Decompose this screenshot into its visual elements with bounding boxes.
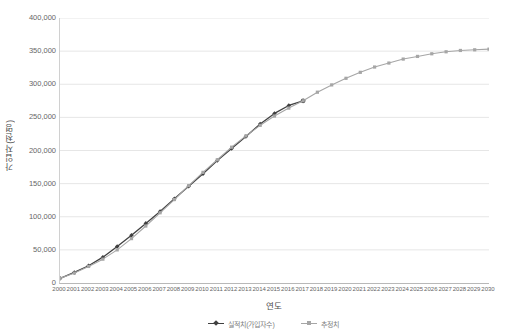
x-axis-tick-label: 2026	[424, 286, 437, 292]
data-point	[359, 71, 362, 74]
data-point	[173, 198, 176, 201]
x-axis-tick-label: 2010	[195, 286, 208, 292]
data-point	[273, 114, 276, 117]
y-axis-tick-label: 350,000	[29, 47, 56, 55]
chart-legend: 실적치(가입자수)추정치	[59, 318, 488, 329]
x-axis-tick-label: 2020	[338, 286, 351, 292]
x-axis-tick-label: 2023	[381, 286, 394, 292]
data-point	[116, 248, 119, 251]
x-axis-tick-label: 2018	[310, 286, 323, 292]
series-canvas	[60, 18, 489, 283]
x-axis-tick-label: 2027	[438, 286, 451, 292]
data-point	[287, 107, 290, 110]
y-axis-tick-label: 150,000	[29, 180, 56, 188]
data-point	[459, 49, 462, 52]
y-axis-title-text: 가입자(천명)	[4, 120, 16, 171]
data-point	[302, 99, 305, 102]
x-axis-tick-label: 2025	[410, 286, 423, 292]
data-point	[60, 277, 62, 280]
x-axis-tick-label: 2013	[238, 286, 251, 292]
data-point	[73, 271, 76, 274]
data-point	[416, 55, 419, 58]
data-point	[487, 48, 489, 51]
x-axis-tick-label: 2014	[253, 286, 266, 292]
data-point	[87, 265, 90, 268]
data-point	[130, 237, 133, 240]
data-point	[159, 211, 162, 214]
y-axis-tick-label: 50,000	[33, 246, 56, 254]
x-axis-tick-label: 2022	[367, 286, 380, 292]
x-axis-tick-label: 2024	[396, 286, 409, 292]
y-axis-tick-label: 250,000	[29, 114, 56, 122]
y-axis-tick-label: 100,000	[29, 213, 56, 221]
data-point	[216, 158, 219, 161]
data-point	[473, 48, 476, 51]
legend-item[interactable]: 추정치	[301, 319, 339, 329]
x-axis-tick-label: 2021	[353, 286, 366, 292]
x-axis-tick-label: 2019	[324, 286, 337, 292]
y-axis-tick-labels: 050,000100,000150,000200,000250,000300,0…	[18, 0, 56, 290]
data-point	[402, 57, 405, 60]
data-point	[373, 65, 376, 68]
data-point	[445, 50, 448, 53]
data-point	[316, 91, 319, 94]
line-chart: 가입자(천명) 050,000100,000150,000200,000250,…	[0, 0, 508, 329]
x-axis-tick-label: 2012	[224, 286, 237, 292]
data-point	[430, 52, 433, 55]
x-axis-tick-label: 2016	[281, 286, 294, 292]
data-point	[101, 258, 104, 261]
x-axis-tick-label: 2000	[52, 286, 65, 292]
x-axis-tick-labels: 2000200120022003200420052006200720082009…	[59, 286, 488, 298]
x-axis-tick-label: 2028	[453, 286, 466, 292]
data-point	[344, 77, 347, 80]
x-axis-tick-label: 2002	[81, 286, 94, 292]
x-axis-tick-label: 2030	[481, 286, 494, 292]
x-axis-tick-label: 2017	[295, 286, 308, 292]
x-axis-tick-label: 2009	[181, 286, 194, 292]
plot-area	[59, 18, 489, 284]
y-axis-title: 가입자(천명)	[0, 0, 20, 290]
y-axis-tick-label: 200,000	[29, 147, 56, 155]
x-axis-tick-label: 2007	[152, 286, 165, 292]
data-point	[387, 61, 390, 64]
x-axis-tick-label: 2011	[210, 286, 223, 292]
data-point	[144, 224, 147, 227]
x-axis-tick-label: 2001	[67, 286, 80, 292]
series-line	[60, 49, 489, 278]
x-axis-tick-label: 2003	[95, 286, 108, 292]
legend-swatch	[208, 323, 224, 324]
data-point	[187, 184, 190, 187]
data-point	[259, 124, 262, 127]
data-point	[330, 83, 333, 86]
x-axis-title: 연도	[59, 299, 488, 311]
x-axis-tick-label: 2008	[167, 286, 180, 292]
legend-swatch	[301, 323, 317, 324]
x-axis-tick-label: 2029	[467, 286, 480, 292]
legend-item[interactable]: 실적치(가입자수)	[208, 319, 275, 329]
x-axis-tick-label: 2006	[138, 286, 151, 292]
y-axis-tick-label: 300,000	[29, 81, 56, 89]
x-axis-tick-label: 2005	[124, 286, 137, 292]
data-point	[244, 134, 247, 137]
series-line	[60, 101, 303, 279]
data-point	[201, 171, 204, 174]
legend-label: 추정치	[321, 319, 339, 329]
legend-label: 실적치(가입자수)	[228, 319, 275, 329]
y-axis-tick-label: 400,000	[29, 14, 56, 22]
x-axis-tick-label: 2015	[267, 286, 280, 292]
x-axis-tick-label: 2004	[110, 286, 123, 292]
data-point	[230, 146, 233, 149]
